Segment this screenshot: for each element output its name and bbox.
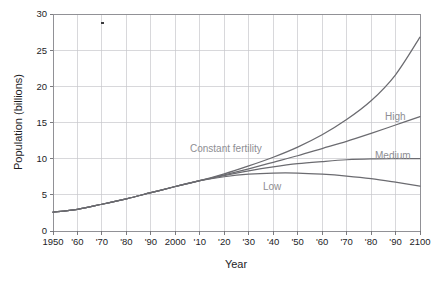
y-tick-label-30: 30 [36, 8, 47, 19]
x-axis-title: Year [225, 258, 248, 270]
population-projection-chart: 1950'60'70'80'902000'10'20'30'40'50'60'7… [0, 0, 443, 282]
x-tick-label-80: '80 [365, 236, 377, 247]
x-tick-label-90: '90 [389, 236, 401, 247]
x-tick-label-40: '40 [267, 236, 279, 247]
x-tick-label-60: '60 [316, 236, 328, 247]
x-tick-label-50: '50 [291, 236, 303, 247]
series-label-low: Low [263, 181, 282, 192]
scan-artifact-speck [101, 22, 104, 24]
x-tick-label-80: '80 [120, 236, 132, 247]
x-tick-label-90: '90 [145, 236, 157, 247]
y-axis-ticks [50, 14, 54, 231]
y-tick-label-10: 10 [36, 153, 47, 164]
y-tick-label-25: 25 [36, 45, 47, 56]
y-tick-label-20: 20 [36, 81, 47, 92]
x-tick-label-30: '30 [243, 236, 255, 247]
chart-canvas: 1950'60'70'80'902000'10'20'30'40'50'60'7… [0, 0, 443, 282]
x-tick-label-10: '10 [194, 236, 206, 247]
x-axis-tick-labels: 1950'60'70'80'902000'10'20'30'40'50'60'7… [42, 236, 430, 247]
x-tick-label-2100: 2100 [409, 236, 430, 247]
x-tick-label-1950: 1950 [42, 236, 63, 247]
series-label-high: High [385, 111, 406, 122]
x-tick-label-70: '70 [96, 236, 108, 247]
y-tick-label-15: 15 [36, 117, 47, 128]
series-label-medium: Medium [375, 150, 411, 161]
x-tick-label-70: '70 [340, 236, 352, 247]
y-axis-tick-labels: 051015202530 [36, 8, 47, 236]
x-tick-label-2000: 2000 [165, 236, 186, 247]
series-label-constant-fertility: Constant fertility [190, 143, 262, 154]
x-tick-label-20: '20 [218, 236, 230, 247]
x-tick-label-60: '60 [71, 236, 83, 247]
x-axis-ticks [53, 231, 420, 235]
y-tick-label-0: 0 [42, 225, 47, 236]
y-axis-title: Population (billions) [12, 74, 24, 170]
y-tick-label-5: 5 [42, 189, 47, 200]
